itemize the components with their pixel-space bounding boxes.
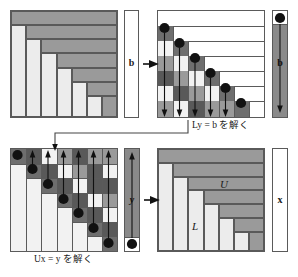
cell-2-1 (173, 41, 188, 56)
cell-4-0 (158, 71, 173, 86)
ucol-line-1 (26, 149, 27, 251)
vector-b-left-label: b (124, 58, 139, 68)
cell-6-3 (204, 101, 219, 117)
res-l-col-1 (173, 177, 188, 251)
ucell-4-5 (87, 207, 102, 222)
ucol-line-5 (87, 149, 88, 251)
u-base-col-4 (72, 222, 87, 251)
res-u-row-3 (204, 190, 264, 204)
label-u: U (220, 179, 228, 190)
caption-ly-b: Ly = b を解く (192, 121, 249, 131)
cell-4-1 (173, 71, 188, 86)
res-l-col-3 (204, 204, 219, 251)
l-col-3 (57, 68, 72, 117)
vector-x-label: x (272, 195, 288, 205)
l-col-0 (11, 25, 26, 117)
ucell-2-4 (72, 178, 87, 193)
matrix-lu-result: U L (157, 148, 265, 252)
u-base-col-3 (57, 207, 72, 251)
connector-L-to-U (52, 120, 188, 151)
cell-5-1 (173, 86, 188, 101)
vector-b-right-topcell (273, 11, 287, 25)
ucell-3-4 (72, 193, 87, 207)
ucell-3-6 (102, 193, 117, 207)
ucell-1-5 (87, 164, 102, 178)
u-base-col-1 (26, 178, 41, 251)
l-col-1 (26, 39, 41, 117)
ucell-1-6 (102, 164, 117, 178)
u-base-col-5 (87, 236, 102, 251)
ucell-0-4 (72, 149, 87, 164)
col-line-1 (173, 26, 174, 117)
res-u-row-0 (158, 149, 264, 163)
lu-solve-figure: b (0, 0, 298, 277)
col-line-2 (188, 41, 189, 117)
col-line-6 (249, 101, 250, 117)
u-row-1 (26, 25, 117, 39)
cell-4-2 (188, 71, 204, 86)
ucell-6-6 (102, 236, 117, 251)
vector-b-right-label: b (272, 58, 288, 68)
matrix-lu-initial (10, 10, 118, 118)
urow-line-5 (72, 222, 117, 223)
res-u-row-4 (219, 204, 264, 218)
cell-5-2 (188, 86, 204, 101)
ucell-0-1 (26, 149, 41, 164)
cell-3-0 (158, 56, 173, 71)
ucol-line-6 (102, 149, 103, 251)
ucell-4-6 (102, 207, 117, 222)
cell-6-1 (173, 101, 188, 117)
ucell-0-6 (102, 149, 117, 164)
ucol-line-4 (72, 149, 73, 251)
ucell-0-2 (41, 149, 57, 164)
label-l: L (192, 221, 198, 232)
cell-6-4 (219, 101, 234, 117)
col-line-3 (204, 56, 205, 117)
ucell-3-3 (57, 193, 72, 207)
ucell-2-3 (57, 178, 72, 193)
ucell-2-6 (102, 178, 117, 193)
ucell-4-4 (72, 207, 87, 222)
u-row-6 (102, 96, 117, 117)
res-u-row-5 (234, 218, 264, 232)
cell-3-2 (188, 56, 204, 71)
cell-6-5 (234, 101, 249, 117)
cell-6-2 (188, 101, 204, 117)
u-row-4 (72, 68, 117, 82)
matrix-l-forward (157, 10, 265, 118)
u-base-col-2 (41, 193, 57, 251)
u-row-2 (41, 39, 117, 53)
res-l-col-5 (234, 232, 249, 251)
ucell-1-3 (57, 164, 72, 178)
col-line-5 (234, 86, 235, 117)
l-col-4 (72, 82, 87, 117)
cell-3-1 (173, 56, 188, 71)
l-col-5 (87, 96, 102, 117)
l-col-2 (41, 53, 57, 117)
cell-6-0 (158, 101, 173, 117)
ucell-3-5 (87, 193, 102, 207)
ucell-0-3 (57, 149, 72, 164)
res-u-row-1 (173, 163, 264, 177)
ucell-2-2 (41, 178, 57, 193)
cell-5-4 (219, 86, 234, 101)
ucell-2-5 (87, 178, 102, 193)
ucell-1-4 (72, 164, 87, 178)
u-row-0 (11, 11, 117, 25)
vector-y-bottomcell (125, 237, 139, 251)
res-u-row-6 (249, 232, 264, 251)
col-line-4 (219, 71, 220, 117)
ucell-5-5 (87, 222, 102, 236)
cell-1-0 (158, 26, 173, 41)
res-l-col-4 (219, 218, 234, 251)
res-l-col-0 (158, 163, 173, 251)
ucell-1-1 (26, 164, 41, 178)
ucell-5-6 (102, 222, 117, 236)
cell-5-3 (204, 86, 219, 101)
ucell-0-0 (11, 149, 26, 164)
matrix-u-backward (10, 148, 118, 252)
cell-4-3 (204, 71, 219, 86)
ucell-1-2 (41, 164, 57, 178)
cell-5-0 (158, 86, 173, 101)
caption-ux-y: Ux = y を解く (34, 255, 93, 265)
